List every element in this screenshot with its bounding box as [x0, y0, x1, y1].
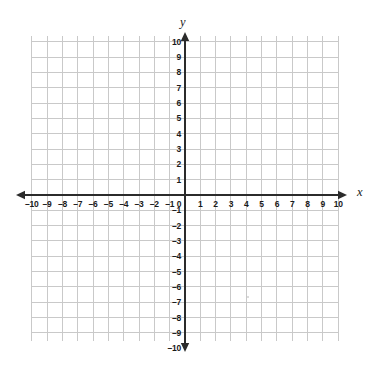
x-tick-label: –7: [73, 200, 82, 209]
x-tick-label: 2: [213, 200, 218, 209]
coordinate-plane-figure: –10–9–8–7–6–5–4–3–2–1012345678910 109876…: [0, 0, 375, 365]
x-tick-label: 5: [259, 200, 264, 209]
y-tick-label: –6: [172, 283, 181, 292]
y-axis-label: y: [180, 16, 186, 29]
y-tick-label: 5: [176, 114, 181, 123]
x-tick-label: –3: [135, 200, 144, 209]
y-tick-label: –3: [172, 237, 181, 246]
x-tick-label: 1: [198, 200, 203, 209]
x-tick-label: 3: [229, 200, 234, 209]
y-tick-label: 8: [176, 68, 181, 77]
x-tick-label: 8: [305, 200, 310, 209]
x-tick-label: 9: [321, 200, 326, 209]
y-tick-label: –10: [167, 344, 181, 353]
y-tick-label: 7: [176, 84, 181, 93]
y-tick-label: 3: [176, 145, 181, 154]
x-tick-label: 6: [275, 200, 280, 209]
x-tick-label: –9: [43, 200, 52, 209]
y-tick-label: –4: [172, 252, 181, 261]
y-tick-label: 9: [176, 53, 181, 62]
scan-artifact-speck: [247, 296, 249, 298]
y-tick-label: –9: [172, 329, 181, 338]
y-tick-label: –5: [172, 267, 181, 276]
x-tick-label: –2: [150, 200, 159, 209]
x-tick-label: –5: [104, 200, 113, 209]
y-tick-label: –7: [172, 298, 181, 307]
x-tick-label: –10: [25, 200, 39, 209]
y-tick-label: –2: [172, 221, 181, 230]
y-tick-label: –1: [172, 206, 181, 215]
x-tick-label: 4: [244, 200, 249, 209]
y-tick-label: 10: [172, 38, 181, 47]
x-tick-label: –6: [89, 200, 98, 209]
x-axis-label: x: [357, 186, 363, 199]
y-tick-label: –8: [172, 313, 181, 322]
grid-and-axes-svg: [0, 0, 375, 365]
x-tick-label: 7: [290, 200, 295, 209]
x-tick-label: 10: [334, 200, 343, 209]
figure-background: [0, 0, 375, 365]
x-tick-label: –4: [119, 200, 128, 209]
y-tick-label: 4: [176, 129, 181, 138]
y-tick-label: 1: [176, 175, 181, 184]
x-tick-label: –8: [58, 200, 67, 209]
y-tick-label: 6: [176, 99, 181, 108]
y-tick-label: 2: [176, 160, 181, 169]
